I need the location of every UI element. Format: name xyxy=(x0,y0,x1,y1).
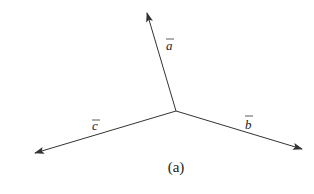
vector-a-arrow xyxy=(147,13,176,111)
vector-a: a xyxy=(147,13,176,111)
vector-c-label: c xyxy=(92,118,98,133)
vector-b: b xyxy=(176,111,302,149)
vector-c-arrow xyxy=(35,111,176,153)
vector-diagram: a b c (a) xyxy=(0,0,314,194)
vector-a-label: a xyxy=(166,38,173,53)
vector-b-arrow xyxy=(176,111,302,149)
figure-caption: (a) xyxy=(168,159,185,176)
vector-c: c xyxy=(35,111,176,153)
vector-b-label: b xyxy=(245,117,252,132)
